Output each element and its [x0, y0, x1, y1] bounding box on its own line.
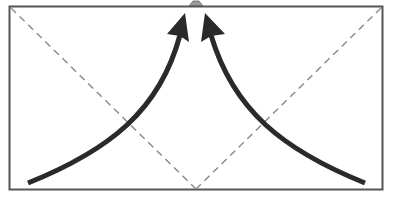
origami-fold-diagram: [0, 0, 397, 205]
paper-outline: [10, 7, 383, 190]
top-center-marker-icon: [189, 1, 203, 6]
